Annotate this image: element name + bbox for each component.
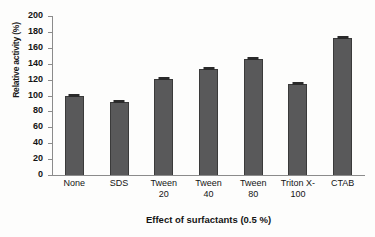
bar-slot <box>141 16 186 175</box>
x-axis-tick-label-line: Triton X- <box>277 178 320 189</box>
y-axis-tick-label: 100 <box>28 90 43 100</box>
y-axis-tick-label: 180 <box>28 26 43 36</box>
x-axis-tick-label: SDS <box>97 178 142 200</box>
bar <box>65 96 84 176</box>
y-axis-tick-label: 200 <box>28 10 43 20</box>
bar-slot <box>320 16 365 175</box>
x-axis-tick-label-line: None <box>53 178 96 189</box>
bar-slot <box>186 16 231 175</box>
x-axis-tick-label: Tween40 <box>186 178 231 200</box>
y-axis-tick-label: 120 <box>28 74 43 84</box>
y-axis-title: Relative activity (%) <box>11 0 21 120</box>
bar-chart-figure: Relative activity (%) 200180160140120100… <box>0 0 375 237</box>
x-axis-line <box>52 175 365 176</box>
bar-slot <box>97 16 142 175</box>
y-axis-tick-label: 20 <box>33 153 43 163</box>
error-bar-cap <box>292 82 303 85</box>
error-bar-cap <box>114 100 125 103</box>
y-axis-tick-label: 160 <box>28 42 43 52</box>
x-axis-tick-label: Tween80 <box>231 178 276 200</box>
y-axis-tick-label: 140 <box>28 58 43 68</box>
bar-slot <box>276 16 321 175</box>
bar <box>333 38 352 175</box>
x-axis-title: Effect of surfactants (0.5 %) <box>52 214 365 225</box>
x-axis-tick-label-line: SDS <box>98 178 141 189</box>
bar <box>154 79 173 175</box>
x-axis-tick-label-line: 20 <box>142 189 185 200</box>
bar <box>199 69 218 175</box>
x-axis-tick-labels: NoneSDSTween20Tween40Tween80Triton X-100… <box>52 178 365 200</box>
bar-slot <box>52 16 97 175</box>
x-axis-tick-label-line: CTAB <box>321 178 364 189</box>
error-bar-cap <box>248 57 259 60</box>
y-axis-tick-mark <box>48 175 52 176</box>
x-axis-tick-label-line: 40 <box>187 189 230 200</box>
y-axis-tick-label: 60 <box>33 121 43 131</box>
x-axis-tick-label-line: Tween <box>232 178 275 189</box>
bar <box>110 102 129 175</box>
x-axis-tick-label-line: Tween <box>187 178 230 189</box>
x-axis-tick-label: Triton X-100 <box>276 178 321 200</box>
error-bar-cap <box>69 94 80 97</box>
bar-slot <box>231 16 276 175</box>
x-axis-tick-label-line: Tween <box>142 178 185 189</box>
x-axis-tick-label: CTAB <box>320 178 365 200</box>
y-axis-tick-label: 80 <box>33 105 43 115</box>
y-axis-tick-label: 40 <box>33 137 43 147</box>
bar <box>244 59 263 175</box>
bar-series <box>52 16 365 175</box>
error-bar-cap <box>158 77 169 80</box>
error-bar-cap <box>203 67 214 70</box>
x-axis-tick-label-line: 80 <box>232 189 275 200</box>
x-axis-tick-label: None <box>52 178 97 200</box>
x-axis-tick-label-line: 100 <box>277 189 320 200</box>
error-bar-cap <box>337 36 348 39</box>
x-axis-tick-label: Tween20 <box>141 178 186 200</box>
bar <box>288 84 307 175</box>
y-axis-tick-label: 0 <box>38 169 43 179</box>
